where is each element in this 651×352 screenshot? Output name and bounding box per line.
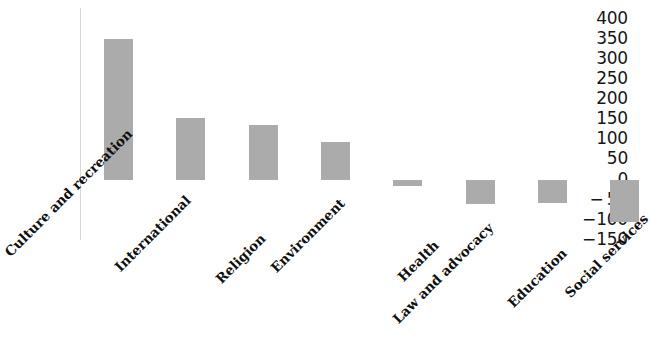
bar-social-services <box>610 180 639 222</box>
y-tick-label: 200 <box>554 90 628 107</box>
y-tick-label: 100 <box>554 130 628 147</box>
plot-area: 400 350 300 250 200 150 100 50 0 − 50 −1… <box>0 0 628 240</box>
x-tick-label-health: Health <box>395 238 441 284</box>
y-tick-label: 50 <box>554 150 628 167</box>
y-tick-label: 150 <box>554 110 628 127</box>
y-tick-label: 350 <box>554 30 628 47</box>
bar-international <box>176 118 205 180</box>
bar-education <box>538 180 567 203</box>
bar-religion <box>249 125 278 180</box>
y-tick-label: −150 <box>554 231 628 248</box>
y-tick-label: 250 <box>554 70 628 87</box>
bar-health <box>393 180 422 186</box>
bar-environment <box>321 142 350 180</box>
x-tick-label-education: Education <box>505 246 569 310</box>
bar-culture-and-recreation <box>104 39 133 180</box>
y-tick-label: 300 <box>554 50 628 67</box>
bar-law-and-advocacy <box>466 180 495 204</box>
y-axis-line <box>80 8 81 240</box>
y-tick-label: 400 <box>554 10 628 27</box>
